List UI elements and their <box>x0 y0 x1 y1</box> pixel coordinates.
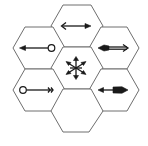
heavy-right-arrow-icon <box>98 87 128 93</box>
hex-grid-diagram <box>0 0 148 146</box>
